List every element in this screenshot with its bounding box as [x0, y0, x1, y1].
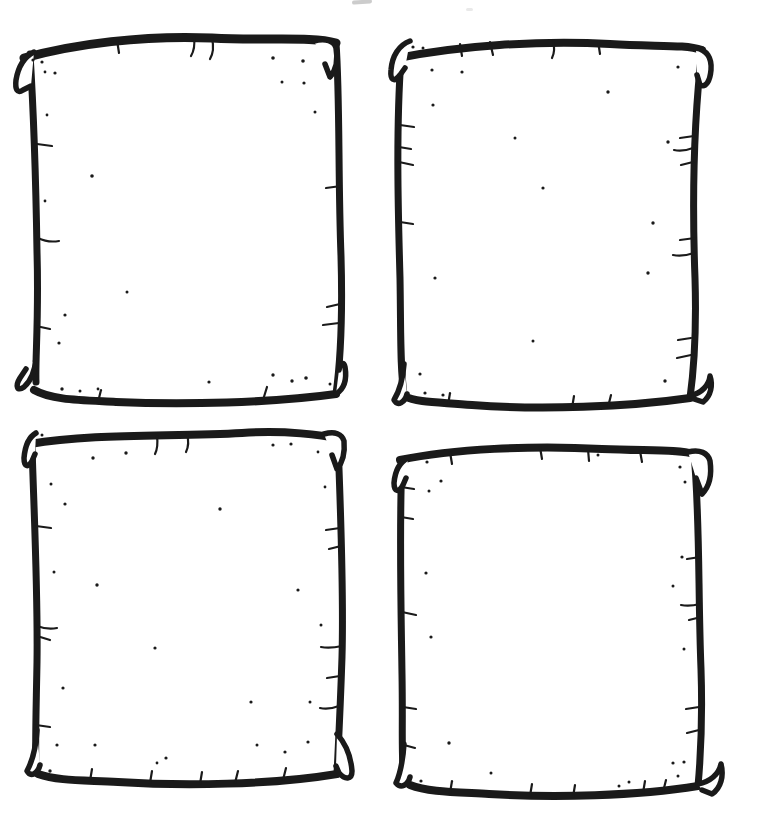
frame-border [398, 43, 702, 408]
corner-curls [391, 41, 711, 403]
corner-curl-bottom-right [336, 734, 352, 778]
corner-curls [16, 40, 346, 394]
worksheet-page [0, 0, 762, 830]
edge-tick-marks [401, 447, 701, 797]
corner-curl-bottom-left [396, 744, 410, 786]
doodle-frame-bottom-right [392, 436, 722, 808]
frame-border [30, 432, 343, 784]
corner-curl-top-left [394, 458, 408, 490]
corner-curl-top-right [314, 40, 337, 77]
corner-curl-top-right [696, 48, 711, 86]
corner-curl-top-right [324, 433, 344, 469]
corner-curls [394, 451, 722, 794]
doodle-frame-top-left [14, 28, 350, 410]
ink-speckles [419, 454, 686, 788]
ink-speckles [41, 434, 327, 773]
stray-smudge [352, 0, 372, 5]
edge-tick-marks [36, 37, 341, 402]
doodle-frame-top-right [388, 28, 716, 418]
corner-curl-top-right [688, 451, 711, 494]
edge-tick-marks [399, 40, 695, 408]
corner-curls [24, 433, 352, 778]
ink-speckles [411, 45, 679, 396]
ink-speckles [31, 56, 331, 392]
corner-curl-top-left [24, 433, 36, 466]
corner-curl-top-left [16, 52, 34, 91]
doodle-frame-bottom-left [22, 424, 354, 796]
frame-border [400, 447, 702, 795]
frame-border [24, 37, 342, 403]
stray-smudge [466, 8, 473, 11]
corner-curl-bottom-left [17, 358, 36, 389]
edge-tick-marks [36, 433, 342, 784]
